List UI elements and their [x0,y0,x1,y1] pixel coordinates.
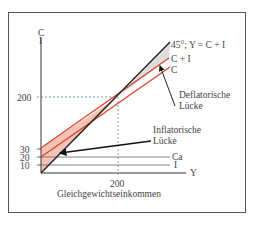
label-c: C [171,65,177,75]
y-axis-label-i: I [39,36,42,46]
inflation-label-2: Lücke [153,136,177,146]
inflation-label-1: Inflatorische [153,125,201,135]
label-y-axis: Y [190,168,197,178]
tick-label-10: 10 [20,161,30,171]
label-45-line: 45°; Y = C + I [171,40,225,50]
label-i: I [174,160,177,170]
deflation-label-1: Deflatorische [179,90,230,100]
c-line [41,67,170,157]
inflation-arrow [60,141,151,153]
tick-label-200-y: 200 [17,93,32,103]
c-plus-i-line [41,58,169,148]
label-c-plus-i: C + I [171,54,191,64]
chart-canvas: C I 200 30 20 10 200 Gleichgewichtseinko… [0,0,258,229]
deflation-label-2: Lücke [179,101,203,111]
tick-label-200-x: 200 [110,179,125,189]
x-axis-title: Gleichgewichtseinkommen [57,189,161,199]
